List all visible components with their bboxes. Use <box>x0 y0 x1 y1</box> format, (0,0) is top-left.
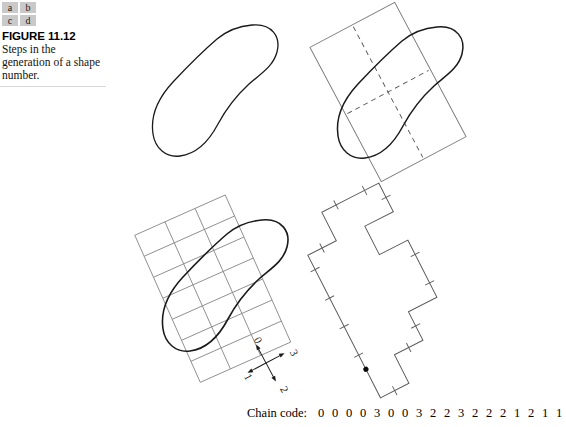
panel-key-a: a <box>2 2 18 13</box>
direction-axes-cross: 0 3 2 1 <box>229 322 314 406</box>
major-axis-dashed <box>353 27 422 158</box>
chain-code-digit: 1 <box>538 406 552 421</box>
direction-label-0: 0 <box>252 335 265 346</box>
start-point-marker <box>362 366 369 373</box>
chain-code-digit: 3 <box>412 406 426 421</box>
chain-code-digit: 2 <box>496 406 510 421</box>
figure-caption-block: a b c d FIGURE 11.12 Steps in the genera… <box>2 2 106 82</box>
minor-axis-dashed <box>347 70 428 113</box>
chain-code-digit: 1 <box>552 406 566 421</box>
panel-a-original-boundary <box>152 25 277 156</box>
chain-code-digit: 2 <box>440 406 454 421</box>
chain-code-digit: 2 <box>482 406 496 421</box>
boundary-curve-b <box>337 27 462 158</box>
panel-key-grid: a b c d <box>2 2 40 26</box>
chain-code-digit: 0 <box>342 406 356 421</box>
chain-code-polygon <box>293 183 466 398</box>
figure-number: FIGURE 11.12 <box>2 30 106 42</box>
panel-d-chain-coded-polygon <box>287 176 473 404</box>
panel-key-row: a b <box>2 2 40 13</box>
chain-code-digit: 3 <box>454 406 468 421</box>
panel-b-axes-and-rectangle <box>310 2 466 181</box>
chain-code-digit: 0 <box>314 406 328 421</box>
direction-label-2: 2 <box>278 384 291 394</box>
chain-code-digit: 1 <box>510 406 524 421</box>
chain-code-digit: 0 <box>384 406 398 421</box>
panel-key-d: d <box>20 15 36 26</box>
chain-code-digit: 2 <box>426 406 440 421</box>
boundary-curve-a <box>152 25 277 156</box>
direction-label-1: 1 <box>242 372 255 382</box>
figure-caption-text: Steps in the generation of a shape numbe… <box>2 43 106 82</box>
segment-tick-marks <box>287 176 473 404</box>
panel-key-b: b <box>20 2 36 13</box>
chain-code-label: Chain code: <box>247 406 307 420</box>
chain-code-readout: Chain code:000030032232221211 <box>247 406 566 421</box>
sampling-grid-c <box>135 195 291 382</box>
basic-rectangle-b <box>310 2 466 181</box>
panel-key-c: c <box>2 15 18 26</box>
caption-divider-rule <box>0 86 106 87</box>
panel-key-row: c d <box>2 15 40 26</box>
chain-code-digit: 0 <box>356 406 370 421</box>
panel-c-grid-overlay <box>135 195 291 382</box>
chain-code-digit: 2 <box>468 406 482 421</box>
chain-code-digit: 0 <box>328 406 342 421</box>
boundary-curve-c <box>162 220 287 351</box>
direction-label-3: 3 <box>288 347 301 358</box>
chain-code-digits: 000030032232221211 <box>314 406 566 420</box>
chain-code-digit: 0 <box>398 406 412 421</box>
chain-code-digit: 3 <box>370 406 384 421</box>
chain-code-digit: 2 <box>524 406 538 421</box>
